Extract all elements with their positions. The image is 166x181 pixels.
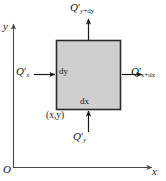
flux-label-left: Q′x [16, 66, 29, 79]
flux-label-right: Q′x+dx [131, 66, 155, 79]
diagram-canvas [0, 0, 166, 181]
flux-symbol-left: Q [16, 65, 24, 77]
flux-subscript-left: x [26, 71, 29, 78]
flux-label-top: Q′y+dy [70, 2, 94, 15]
origin-label: O [3, 164, 11, 175]
flux-label-bottom: Q′y [73, 131, 86, 144]
flux-subscript-right-op: +d [144, 71, 151, 78]
flux-symbol-right: Q [131, 65, 139, 77]
dimension-label-dx: dx [80, 97, 89, 106]
flux-subscript-bottom: y [83, 136, 86, 143]
flux-symbol-bottom: Q [73, 130, 81, 142]
flux-symbol-top: Q [70, 1, 78, 13]
y-axis-label: y [3, 21, 8, 32]
dimension-label-dy: dy [59, 67, 68, 76]
coordinate-label: (x,y) [46, 111, 64, 121]
x-axis-label: x [152, 166, 157, 177]
flux-subscript-top-op: +d [83, 7, 90, 14]
flux-subscript-top-diff: y [91, 7, 94, 14]
flux-subscript-right-diff: x [152, 71, 155, 78]
heat-flux-diagram: Q′y+dy Q′x+dx Q′x Q′y dy dx (x,y) y x O [0, 0, 166, 181]
